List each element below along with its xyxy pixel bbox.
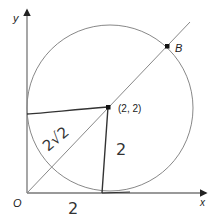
origin-label: O — [13, 197, 22, 209]
x-axis-label: x — [199, 197, 206, 208]
diagram-canvas: y x O B (2, 2) 2√2 2 2 — [0, 0, 216, 224]
point-b-label: B — [175, 42, 182, 54]
handwritten-vertical-radius — [102, 107, 108, 193]
point-b — [165, 44, 170, 49]
vertical-radius-annotation: 2 — [116, 140, 126, 159]
handwritten-horizontal-radius — [27, 107, 108, 114]
center-label: (2, 2) — [118, 103, 141, 114]
base-annotation: 2 — [68, 199, 78, 218]
center-point — [106, 105, 111, 110]
y-axis-label: y — [12, 12, 20, 24]
